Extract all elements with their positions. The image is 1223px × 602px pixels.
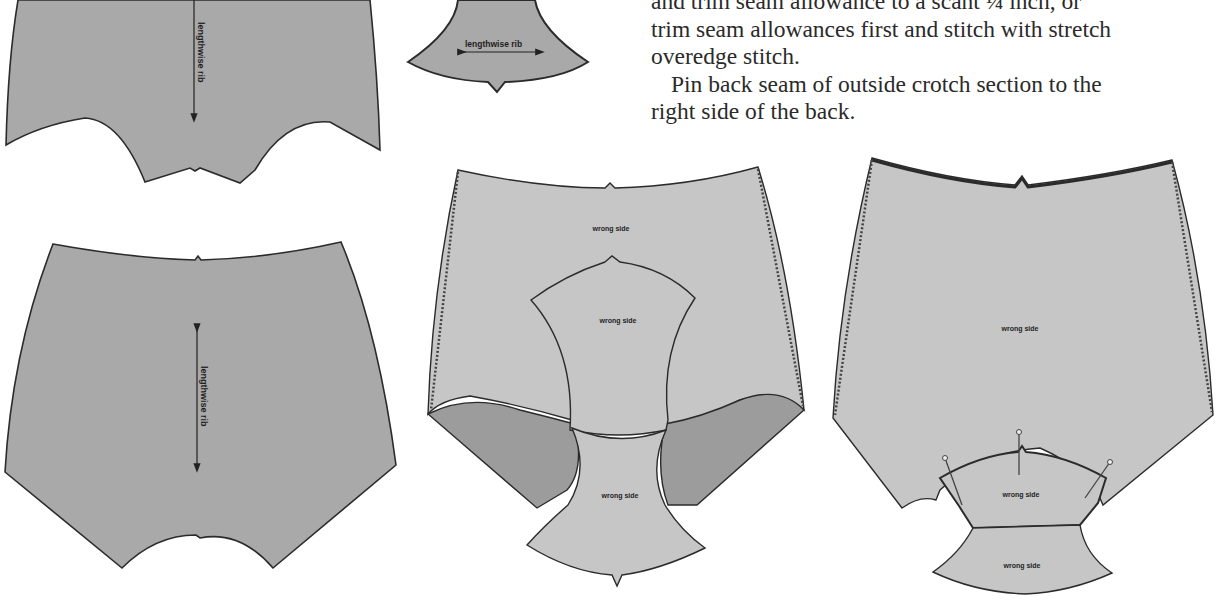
grain-label: lengthwise rib bbox=[196, 22, 206, 83]
wrong-side-label: wrong side bbox=[1003, 562, 1041, 570]
wrong-side-label: wrong side bbox=[1002, 491, 1040, 499]
wrong-side-label: wrong side bbox=[1001, 325, 1039, 333]
crotch-piece-small: lengthwise rib bbox=[408, 0, 588, 92]
back-piece: lengthwise rib bbox=[5, 242, 396, 568]
wrong-side-label: wrong side bbox=[592, 225, 630, 233]
grain-label: lengthwise rib bbox=[199, 366, 209, 427]
wrong-side-label: wrong side bbox=[601, 492, 639, 500]
wrong-side-label: wrong side bbox=[599, 317, 637, 325]
illustrations: lengthwise rib lengthwise rib lengthwise… bbox=[0, 0, 1223, 602]
front-piece-top: lengthwise rib bbox=[6, 0, 380, 183]
assembled-back: wrong side wrong side wrong side bbox=[833, 158, 1213, 594]
assembled-front: wrong side wrong side wrong side bbox=[428, 167, 804, 586]
grain-label: lengthwise rib bbox=[465, 39, 522, 49]
